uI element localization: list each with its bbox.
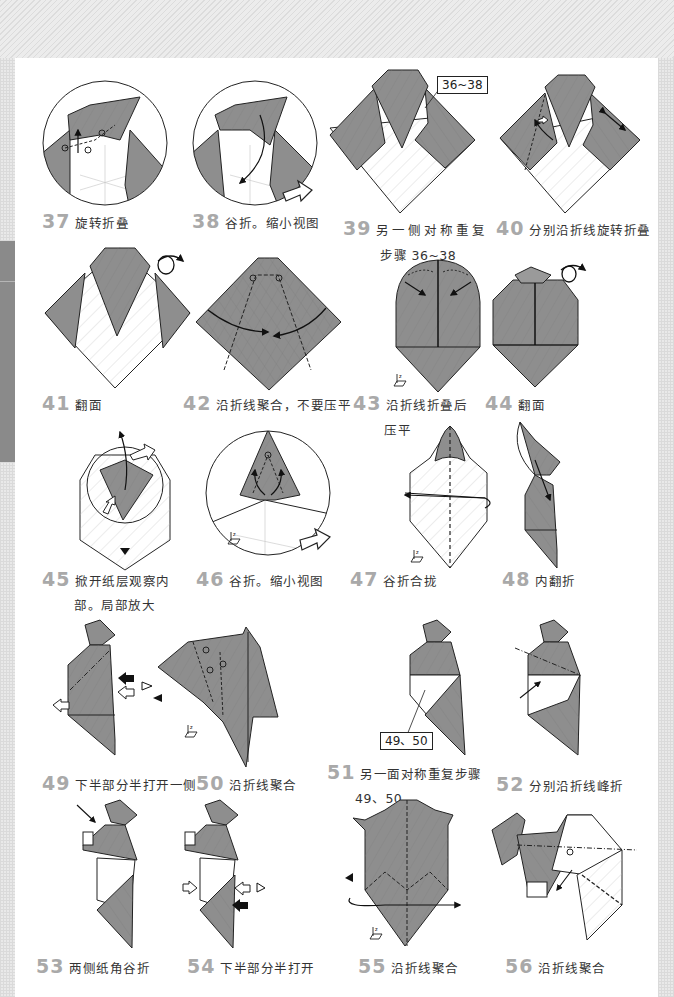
- step-38-diagram: [190, 75, 330, 210]
- step-51-diagram: 49、50: [405, 620, 485, 760]
- step-number: 43: [353, 392, 381, 414]
- step-number: 51: [327, 761, 355, 783]
- step-number: 44: [485, 392, 513, 414]
- step-52-caption: 52 分别沿折线峰折: [496, 773, 624, 795]
- step-42-diagram: [196, 250, 341, 392]
- step-number: 47: [350, 568, 378, 590]
- step-43-caption: 43 沿折线折叠后: [353, 392, 467, 414]
- step-56-diagram: [487, 810, 647, 945]
- step-39-caption: 39 另一侧对称重复: [343, 217, 488, 239]
- step-40-caption: 40 分别沿折线旋转折叠: [496, 217, 651, 239]
- step-44-caption: 44 翻面: [485, 392, 545, 414]
- step-number: 52: [496, 773, 524, 795]
- step-instruction: 沿折线折叠后: [386, 395, 467, 414]
- step-number: 56: [505, 955, 533, 977]
- step-number: 40: [496, 217, 524, 239]
- step-54-diagram: [180, 800, 265, 950]
- push-arrow-icon: [183, 881, 197, 894]
- axis-z-icon: z: [226, 530, 242, 546]
- step-53-caption: 53 两侧纸角谷折: [36, 955, 150, 977]
- step-56-caption: 56 沿折线聚合: [505, 955, 606, 977]
- step-instruction: 另一面对称重复步骤: [360, 764, 482, 783]
- step-number: 48: [502, 568, 530, 590]
- step-instruction: 两侧纸角谷折: [69, 958, 150, 977]
- step-37-diagram: [40, 75, 170, 210]
- step-instruction: 掀开纸层观察内: [75, 571, 170, 590]
- step-instruction: 翻面: [75, 395, 102, 414]
- step-number: 50: [196, 772, 224, 794]
- push-arrow-icon: [118, 686, 134, 699]
- step-instruction: 谷折合拢: [383, 571, 437, 590]
- axis-z-icon: z: [368, 925, 384, 941]
- step-instruction: 谷折。缩小视图: [225, 213, 320, 232]
- step-instruction: 沿折线聚合: [538, 958, 606, 977]
- step-45-instruction-cont: 部。局部放大: [74, 595, 155, 614]
- step-number: 41: [42, 392, 70, 414]
- step-instruction: 分别沿折线峰折: [529, 776, 624, 795]
- step-40-diagram: [495, 75, 645, 215]
- right-margin-pattern: [658, 58, 674, 997]
- push-arrow-icon: [235, 882, 250, 895]
- step-instruction: 沿折线聚合，不要压平: [216, 395, 351, 414]
- svg-text:z: z: [233, 531, 236, 537]
- step-instruction: 旋转折叠: [75, 213, 129, 232]
- step-instruction: 沿折线聚合: [229, 775, 297, 794]
- step-instruction: 谷折。缩小视图: [229, 571, 324, 590]
- push-arrow-icon: [118, 672, 134, 685]
- svg-text:z: z: [190, 724, 193, 730]
- step-39-diagram: 36~38: [330, 68, 480, 218]
- step-instruction: 内翻折: [535, 571, 576, 590]
- step-48-diagram: [515, 420, 575, 570]
- step-41-caption: 41 翻面: [42, 392, 102, 414]
- reference-steps-box: 49、50: [380, 732, 433, 750]
- step-52-diagram: [510, 620, 595, 760]
- step-55-diagram: [345, 800, 470, 950]
- eye-view-icon: [345, 873, 353, 882]
- step-53-diagram: [75, 800, 145, 950]
- reference-steps-box: 36~38: [437, 76, 488, 94]
- eye-view-icon: [142, 682, 152, 690]
- step-number: 42: [183, 392, 211, 414]
- axis-z-icon: z: [183, 723, 199, 739]
- step-42-caption: 42 沿折线聚合，不要压平: [183, 392, 351, 414]
- step-instruction: 下半部分半打开一侧: [75, 775, 197, 794]
- svg-text:z: z: [416, 549, 419, 555]
- push-arrow-icon: [53, 699, 69, 712]
- step-47-caption: 47 谷折合拢: [350, 568, 437, 590]
- step-number: 45: [42, 568, 70, 590]
- eye-view-icon: [257, 883, 265, 892]
- step-46-diagram: [205, 425, 335, 560]
- step-instruction: 另一侧对称重复: [376, 220, 488, 239]
- step-49-caption: 49 下半部分半打开一侧: [42, 772, 197, 794]
- step-37-caption: 37 旋转折叠: [42, 210, 129, 232]
- step-number: 38: [192, 210, 220, 232]
- step-number: 46: [196, 568, 224, 590]
- step-instruction: 沿折线聚合: [391, 958, 459, 977]
- step-38-caption: 38 谷折。缩小视图: [192, 210, 320, 232]
- turn-over-icon: [557, 263, 593, 285]
- step-47-diagram: [405, 423, 505, 568]
- step-number: 54: [187, 955, 215, 977]
- step-51-caption: 51 另一面对称重复步骤: [327, 761, 482, 783]
- left-margin-pattern: [0, 58, 15, 997]
- step-instruction: 分别沿折线旋转折叠: [529, 220, 651, 239]
- step-54-caption: 54 下半部分半打开: [187, 955, 315, 977]
- step-49-diagram: [50, 620, 165, 765]
- step-48-caption: 48 内翻折: [502, 568, 576, 590]
- axis-z-icon: z: [392, 372, 408, 388]
- step-number: 37: [42, 210, 70, 232]
- axis-z-icon: z: [409, 548, 425, 564]
- step-instruction: 下半部分半打开: [220, 958, 315, 977]
- step-number: 39: [343, 217, 371, 239]
- step-46-caption: 46 谷折。缩小视图: [196, 568, 324, 590]
- step-number: 49: [42, 772, 70, 794]
- step-50-caption: 50 沿折线聚合: [196, 772, 297, 794]
- step-instruction: 翻面: [518, 395, 545, 414]
- step-number: 53: [36, 955, 64, 977]
- step-50-diagram: [158, 622, 293, 767]
- chapter-tab: [0, 241, 15, 462]
- svg-text:z: z: [375, 926, 378, 932]
- svg-text:z: z: [399, 373, 402, 379]
- turn-over-icon: [153, 253, 189, 277]
- step-55-caption: 55 沿折线聚合: [358, 955, 459, 977]
